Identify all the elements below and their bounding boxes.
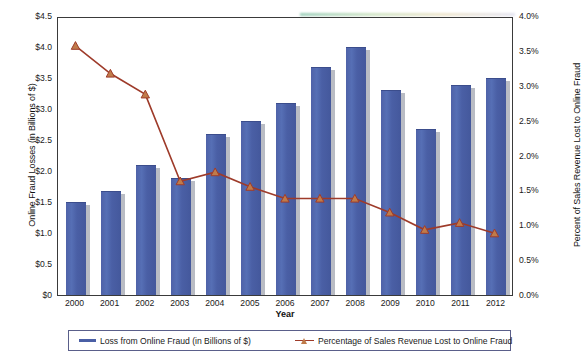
y-tick-right: 2.5% [519, 117, 539, 126]
legend-bar-label: Loss from Online Fraud (in Billions of $… [100, 336, 251, 346]
line-marker-2002 [141, 90, 149, 98]
line-marker-2004 [211, 168, 219, 176]
x-tick-2009: 2009 [381, 298, 400, 308]
plot-area [57, 17, 513, 296]
y-tick-right: 4.0% [519, 12, 539, 21]
line-marker-2000 [71, 42, 79, 50]
legend-item-line[interactable]: Percentage of Sales Revenue Lost to Onli… [295, 336, 512, 346]
x-tick-2012: 2012 [486, 298, 505, 308]
y-tick-right: 1.5% [519, 186, 539, 195]
y-tick-left: $3.5 [35, 74, 52, 83]
line-marker-2005 [246, 183, 254, 191]
y-tick-left: $3.0 [35, 105, 52, 114]
y-axis-left-ticks: $0$0.5$1.0$1.5$2.0$2.5$3.0$3.5$4.0$4.5 [8, 0, 52, 300]
x-tick-2006: 2006 [275, 298, 294, 308]
y-tick-right: 1.0% [519, 221, 539, 230]
y-tick-right: 3.5% [519, 47, 539, 56]
y-tick-right: 0.5% [519, 256, 539, 265]
y-tick-right: 2.0% [519, 152, 539, 161]
x-tick-2007: 2007 [311, 298, 330, 308]
chart-legend: Loss from Online Fraud (in Billions of $… [68, 330, 511, 351]
legend-item-bar[interactable]: Loss from Online Fraud (in Billions of $… [79, 336, 251, 346]
y-tick-left: $2.0 [35, 167, 52, 176]
y-tick-left: $2.5 [35, 136, 52, 145]
legend-line-label: Percentage of Sales Revenue Lost to Onli… [318, 336, 512, 346]
y-tick-left: $1.0 [35, 229, 52, 238]
y-tick-left: $0.5 [35, 260, 52, 269]
y-tick-left: $1.5 [35, 198, 52, 207]
y-tick-right: 3.0% [519, 82, 539, 91]
y-tick-left: $4.5 [35, 12, 52, 21]
x-axis-ticks: 2000200120022003200420052006200720082009… [57, 298, 513, 312]
x-tick-2005: 2005 [240, 298, 259, 308]
x-tick-2011: 2011 [451, 298, 469, 308]
x-tick-2003: 2003 [170, 298, 189, 308]
y-tick-right: 0.0% [519, 291, 539, 300]
line-marker-2011 [455, 219, 463, 227]
x-tick-2000: 2000 [65, 298, 84, 308]
x-tick-2008: 2008 [346, 298, 365, 308]
y-axis-right-title: Percent of Sales Revenue Lost to Online … [572, 30, 582, 280]
x-tick-2010: 2010 [416, 298, 435, 308]
y-tick-left: $4.0 [35, 43, 52, 52]
y-tick-left: $0 [42, 291, 52, 300]
y-axis-right-ticks: 0.0%0.5%1.0%1.5%2.0%2.5%3.0%3.5%4.0% [519, 0, 569, 300]
x-tick-2004: 2004 [205, 298, 224, 308]
x-tick-2002: 2002 [135, 298, 154, 308]
line-path [75, 46, 494, 233]
x-tick-2001: 2001 [100, 298, 119, 308]
legend-line-swatch-icon [295, 337, 314, 345]
line-series [58, 18, 512, 296]
scan-artifact [300, 13, 515, 16]
legend-bar-swatch-icon [79, 339, 96, 342]
